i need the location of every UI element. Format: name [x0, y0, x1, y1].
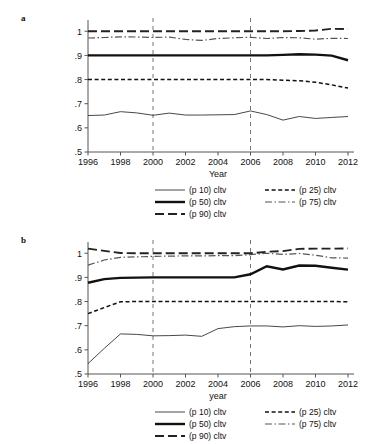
legend-label-p75: (p 75) cltv	[299, 197, 337, 207]
series-line-p90	[88, 29, 348, 31]
legend-label-p50: (p 50) cltv	[189, 419, 227, 429]
legend-label-p10: (p 10) cltv	[189, 185, 227, 195]
y-tick-label: .8	[74, 75, 82, 85]
x-tick-label: 2006	[240, 157, 260, 167]
x-tick-label: 2000	[143, 157, 163, 167]
x-tick-label: 2006	[240, 379, 260, 389]
series-line-p10	[88, 325, 348, 364]
x-tick-label: 1998	[110, 157, 130, 167]
x-axis-title: Year	[209, 169, 227, 179]
chart-panel-b: b .5.6.7.8.91199619982000200220042006200…	[0, 222, 377, 444]
legend-label-p25: (p 25) cltv	[299, 407, 337, 417]
series-line-p50	[88, 266, 348, 283]
legend-label-p10: (p 10) cltv	[189, 407, 227, 417]
series-line-p50	[88, 54, 348, 60]
panel-a-plot: .5.6.7.8.9119961998200020022004200620082…	[0, 0, 377, 222]
x-tick-label: 2008	[273, 379, 293, 389]
y-tick-label: 1	[77, 249, 82, 259]
chart-panel-a: a .5.6.7.8.91199619982000200220042006200…	[0, 0, 377, 222]
y-tick-label: .6	[74, 345, 82, 355]
x-tick-label: 2010	[305, 157, 325, 167]
x-axis-title: year	[209, 391, 227, 401]
legend-label-p90: (p 90) cltv	[189, 209, 227, 219]
x-tick-label: 2008	[273, 157, 293, 167]
x-tick-label: 2000	[143, 379, 163, 389]
series-line-p75	[88, 253, 348, 265]
panel-b-plot: .5.6.7.8.9119961998200020022004200620082…	[0, 222, 377, 444]
y-tick-label: .6	[74, 123, 82, 133]
x-tick-label: 1996	[78, 379, 98, 389]
x-tick-label: 2004	[208, 379, 228, 389]
y-tick-label: .9	[74, 51, 82, 61]
y-tick-label: .5	[74, 147, 82, 157]
y-tick-label: .9	[74, 273, 82, 283]
legend-label-p75: (p 75) cltv	[299, 419, 337, 429]
legend-label-p50: (p 50) cltv	[189, 197, 227, 207]
series-line-p25	[88, 302, 348, 314]
y-tick-label: .5	[74, 369, 82, 379]
x-tick-label: 2012	[338, 157, 358, 167]
x-tick-label: 1996	[78, 157, 98, 167]
y-tick-label: 1	[77, 27, 82, 37]
y-tick-label: .7	[74, 99, 82, 109]
series-line-p25	[88, 80, 348, 88]
x-tick-label: 2004	[208, 157, 228, 167]
x-tick-label: 2002	[175, 379, 195, 389]
y-tick-label: .7	[74, 321, 82, 331]
legend-label-p25: (p 25) cltv	[299, 185, 337, 195]
y-tick-label: .8	[74, 297, 82, 307]
x-tick-label: 2010	[305, 379, 325, 389]
legend-label-p90: (p 90) cltv	[189, 431, 227, 441]
x-tick-label: 2012	[338, 379, 358, 389]
series-line-p90	[88, 248, 348, 253]
series-line-p75	[88, 37, 348, 41]
x-tick-label: 2002	[175, 157, 195, 167]
x-tick-label: 1998	[110, 379, 130, 389]
series-line-p10	[88, 111, 348, 120]
